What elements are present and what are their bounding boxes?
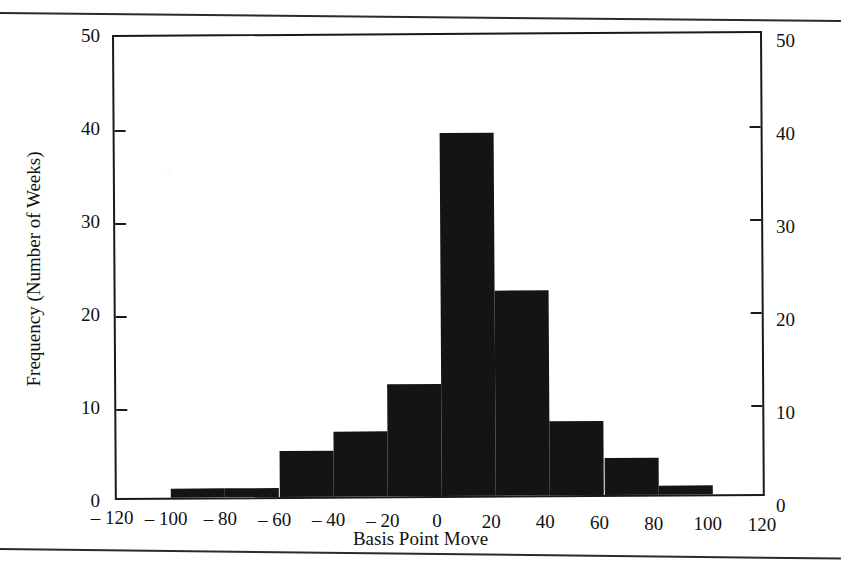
- histogram-bar: [550, 421, 605, 496]
- y-axis-tick-label: 10: [60, 398, 100, 417]
- bar-series: [114, 33, 763, 498]
- histogram-figure: 50403020100 50403020100 – 120– 100– 80– …: [0, 0, 841, 574]
- y-axis-tick: [115, 223, 126, 225]
- y-axis-tick-label: 30: [60, 212, 100, 231]
- y-axis-tick: [750, 219, 761, 221]
- y-axis-tick-label: 10: [776, 403, 816, 422]
- y-axis-tick-label: 50: [776, 31, 816, 50]
- x-axis-tick-label: – 40: [299, 510, 359, 529]
- y-axis-tick-label: 20: [776, 310, 816, 329]
- y-axis-tick-label: 0: [776, 496, 816, 515]
- x-axis-tick-label: – 60: [245, 510, 305, 529]
- histogram-bar: [225, 488, 279, 498]
- y-axis-tick: [751, 312, 762, 314]
- y-axis-title: Frequency (Number of Weeks): [23, 59, 45, 479]
- histogram-bar: [658, 485, 712, 495]
- x-axis-tick-label: – 120: [82, 508, 142, 527]
- x-axis-tick-label: – 100: [136, 509, 196, 528]
- histogram-bar: [333, 431, 388, 496]
- histogram-bar: [440, 133, 496, 496]
- plot-area: [112, 31, 765, 500]
- y-axis-tick: [115, 130, 126, 132]
- y-axis-tick: [751, 405, 762, 407]
- histogram-bar: [495, 291, 550, 496]
- x-axis-title: Basis Point Move: [0, 528, 841, 550]
- histogram-bar: [279, 450, 333, 497]
- histogram-bar: [604, 457, 658, 495]
- y-axis-tick-label: 30: [776, 217, 816, 236]
- histogram-bar: [171, 488, 225, 498]
- y-axis-tick: [750, 126, 761, 128]
- histogram-bar: [387, 384, 442, 496]
- x-axis-tick-label: – 80: [190, 509, 250, 528]
- y-axis-tick-label: 40: [776, 124, 816, 143]
- y-axis-tick: [116, 409, 127, 411]
- x-axis-tick-label: – 20: [353, 511, 413, 530]
- top-divider-rule: [0, 12, 841, 22]
- y-axis-tick-label: 40: [60, 119, 100, 138]
- y-axis-tick-label: 50: [60, 26, 100, 45]
- y-axis-tick: [116, 316, 127, 318]
- y-axis-tick-label: 20: [60, 305, 100, 324]
